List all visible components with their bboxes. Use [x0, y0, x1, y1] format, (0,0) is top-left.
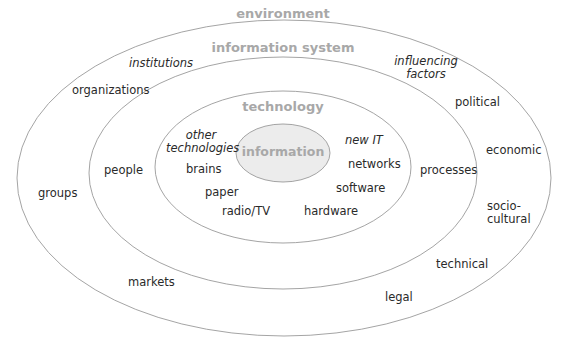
- label-legal: legal: [385, 291, 413, 304]
- label-new-it: new IT: [345, 134, 383, 147]
- label-other-technologies: other technologies: [166, 129, 236, 155]
- label-hardware: hardware: [304, 205, 358, 218]
- label-socio-line2: cultural: [487, 213, 531, 226]
- label-organizations: organizations: [72, 84, 150, 97]
- label-processes: processes: [420, 164, 477, 177]
- information-system-title: information system: [212, 40, 355, 55]
- label-influencing-factors: influencing factors: [386, 55, 466, 81]
- label-markets: markets: [128, 276, 175, 289]
- label-economic: economic: [486, 144, 541, 157]
- label-paper: paper: [205, 186, 238, 199]
- label-other-line2: technologies: [166, 142, 236, 155]
- label-influencing-line2: factors: [386, 68, 466, 81]
- label-networks: networks: [348, 158, 401, 171]
- label-socio-cultural: socio- cultural: [487, 200, 531, 226]
- information-title: information: [242, 144, 325, 159]
- label-radio-tv: radio/TV: [222, 205, 270, 218]
- label-people: people: [104, 164, 143, 177]
- technology-title: technology: [242, 99, 323, 114]
- information-system-diagram: environment information system technolog…: [0, 0, 565, 346]
- label-software: software: [336, 182, 385, 195]
- environment-title: environment: [236, 6, 329, 21]
- label-political: political: [455, 96, 500, 109]
- label-technical: technical: [436, 258, 488, 271]
- label-brains: brains: [186, 163, 222, 176]
- label-groups: groups: [38, 187, 77, 200]
- label-institutions: institutions: [129, 57, 193, 70]
